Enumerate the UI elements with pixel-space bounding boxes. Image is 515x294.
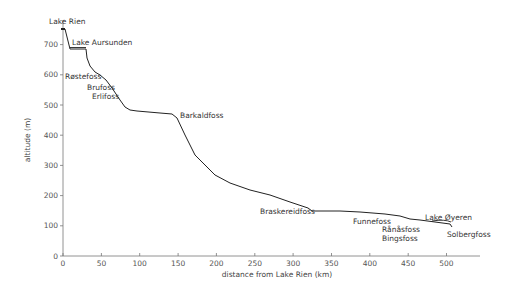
y-axis-title: altitude (m) xyxy=(23,118,32,162)
chart: 0 100 200 300 400 500 600 700 0 50 100 1… xyxy=(0,0,515,294)
annotation-ranasfoss: Rånåsfoss xyxy=(382,225,420,234)
annotation-lake-rien: Lake Rien xyxy=(49,17,86,26)
y-tick-label: 0 xyxy=(53,252,58,261)
annotation-erlifoss: Erlifoss xyxy=(92,92,119,101)
x-tick-label: 500 xyxy=(439,259,454,268)
y-tick-label: 600 xyxy=(44,70,59,79)
y-tick-label: 700 xyxy=(44,40,59,49)
annotation-solbergfoss: Solbergfoss xyxy=(447,230,491,239)
y-tick-label: 100 xyxy=(44,221,59,230)
y-tick-label: 300 xyxy=(44,161,59,170)
annotation-brufoss: Brufoss xyxy=(87,83,115,92)
x-tick-label: 100 xyxy=(133,259,148,268)
x-tick-label: 350 xyxy=(324,259,339,268)
annotation-bingsfoss: Bingsfoss xyxy=(382,234,418,243)
annotations: Lake Rien Lake Aursunden Røstefoss Brufo… xyxy=(49,17,491,243)
annotation-rostefoss: Røstefoss xyxy=(65,72,101,81)
x-tick-label: 200 xyxy=(209,259,224,268)
y-tick-label: 400 xyxy=(44,131,59,140)
y-ticks xyxy=(60,45,63,256)
x-tick-label: 50 xyxy=(97,259,107,268)
y-tick-label: 500 xyxy=(44,101,59,110)
x-axis-title: distance from Lake Rien (km) xyxy=(222,270,332,279)
y-tick-labels: 0 100 200 300 400 500 600 700 xyxy=(44,40,59,260)
river-profile-line xyxy=(61,29,452,227)
y-tick-label: 200 xyxy=(44,191,59,200)
annotation-braskereidfoss: Braskereidfoss xyxy=(260,207,315,216)
x-tick-label: 250 xyxy=(248,259,263,268)
x-tick-label: 300 xyxy=(286,259,301,268)
x-ticks xyxy=(63,253,447,256)
x-tick-labels: 0 50 100 150 200 250 300 350 400 450 500 xyxy=(61,259,454,268)
annotation-lake-aursunden: Lake Aursunden xyxy=(72,38,133,47)
annotation-lake-oyeren: Lake Øyeren xyxy=(425,213,472,222)
x-tick-label: 450 xyxy=(401,259,416,268)
annotation-barkaldfoss: Barkaldfoss xyxy=(180,111,224,120)
x-tick-label: 400 xyxy=(363,259,378,268)
x-tick-label: 150 xyxy=(171,259,186,268)
x-tick-label: 0 xyxy=(61,259,66,268)
